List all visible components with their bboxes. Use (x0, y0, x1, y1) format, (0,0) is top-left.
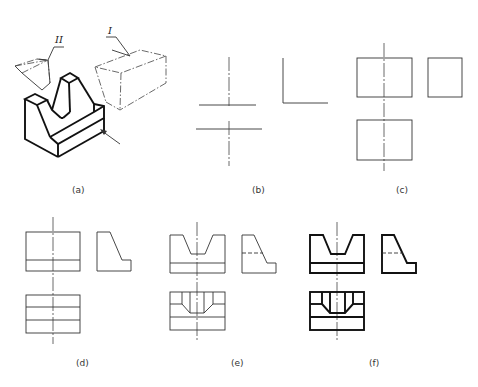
caption-b: (b) (252, 185, 265, 195)
removed-prism-ii (15, 47, 64, 90)
removed-box-i (95, 37, 166, 110)
panel-d-base-and-slope (26, 217, 131, 344)
caption-a: (a) (72, 185, 85, 195)
part-label-i: I (108, 25, 112, 36)
panel-f-final (310, 222, 416, 340)
caption-f: (f) (369, 358, 379, 368)
view-direction-arrow (100, 129, 120, 144)
caption-c: (c) (396, 185, 408, 195)
part-label-ii: II (55, 34, 63, 45)
panel-b-centerlines (196, 57, 328, 166)
panel-e-notch (170, 222, 276, 340)
caption-d: (d) (76, 358, 89, 368)
panel-c-bounding-boxes (357, 43, 462, 171)
panel-a-isometric (15, 37, 166, 157)
caption-e: (e) (231, 358, 244, 368)
